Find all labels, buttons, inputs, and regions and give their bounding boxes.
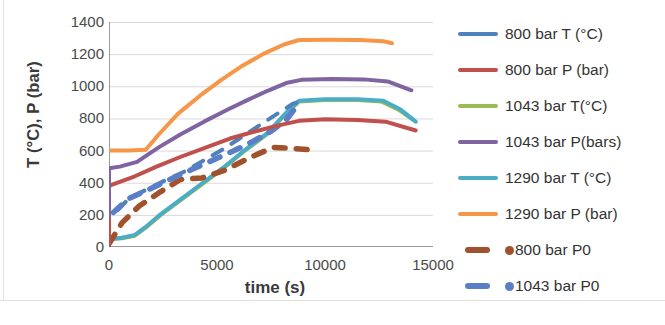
- legend-swatch-icon: [455, 24, 499, 44]
- x-tick-label: 0: [69, 256, 149, 273]
- y-axis-tick-labels: 0200400600800100012001400: [46, 0, 104, 270]
- x-tick-label: 10000: [285, 256, 365, 273]
- legend-swatch-icon: [455, 60, 499, 80]
- legend-swatch-icon: [455, 168, 499, 188]
- legend-label: 800 bar P0: [515, 241, 591, 259]
- x-tick-label: 5000: [177, 256, 257, 273]
- legend-label: 800 bar P (bar): [505, 61, 609, 79]
- y-tick-label: 400: [48, 175, 104, 190]
- legend-swatch-icon: [455, 276, 499, 296]
- y-axis-title: T (°C), P (bar): [24, 20, 43, 210]
- legend-item[interactable]: 1043 bar P0: [455, 276, 665, 296]
- legend-swatch-icon: [455, 240, 499, 260]
- y-tick-label: 1000: [48, 78, 104, 93]
- chart-screenshot: T (°C), P (bar) 020040060080010001200140…: [0, 0, 665, 325]
- plot-svg: [109, 22, 433, 247]
- legend-item[interactable]: 1290 bar P (bar): [455, 204, 665, 224]
- plot-area: [109, 22, 433, 247]
- legend-item[interactable]: 800 bar P (bar): [455, 60, 665, 80]
- legend-item[interactable]: 1043 bar P(bars): [455, 132, 665, 152]
- y-tick-label: 200: [48, 207, 104, 222]
- legend-label: 1290 bar T (°C): [505, 169, 611, 187]
- legend-marker-dot-icon: [505, 282, 514, 291]
- legend-item[interactable]: 800 bar T (°C): [455, 24, 665, 44]
- x-axis-title: time (s): [110, 278, 440, 298]
- legend-item[interactable]: 1290 bar T (°C): [455, 168, 665, 188]
- legend-marker-dot-icon: [505, 246, 514, 255]
- chart-legend: 800 bar T (°C)800 bar P (bar)1043 bar T(…: [455, 24, 665, 314]
- legend-label: 1043 bar P0: [515, 277, 599, 295]
- x-axis-tick-labels: 050001000015000: [60, 250, 450, 274]
- legend-swatch-icon: [455, 132, 499, 152]
- y-tick-label: 1200: [48, 46, 104, 61]
- legend-label: 1043 bar T(°C): [505, 97, 607, 115]
- legend-swatch-icon: [455, 96, 499, 116]
- legend-swatch-icon: [455, 204, 499, 224]
- legend-item[interactable]: 1043 bar T(°C): [455, 96, 665, 116]
- legend-label: 800 bar T (°C): [505, 25, 603, 43]
- legend-label: 1290 bar P (bar): [505, 205, 618, 223]
- legend-label: 1043 bar P(bars): [505, 133, 621, 151]
- line-chart: T (°C), P (bar) 020040060080010001200140…: [0, 0, 450, 325]
- y-tick-label: 1400: [48, 14, 104, 29]
- y-tick-label: 800: [48, 110, 104, 125]
- y-tick-label: 600: [48, 143, 104, 158]
- legend-item[interactable]: 800 bar P0: [455, 240, 665, 260]
